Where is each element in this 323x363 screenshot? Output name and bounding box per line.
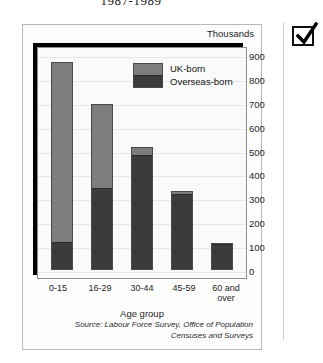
y-axis-tick-label: 200 — [249, 218, 265, 229]
x-axis-tick-label: 16-29 — [82, 283, 119, 303]
chart-legend: UK-born Overseas-born — [133, 63, 233, 88]
bar-slot — [165, 57, 200, 270]
x-axis-tick-label: 60 and over — [208, 283, 245, 303]
y-axis-tick-label: 500 — [249, 146, 265, 157]
stacked-bar[interactable] — [171, 191, 193, 270]
bar-segment-uk-born — [92, 105, 112, 188]
y-axis-tick-label: 600 — [249, 122, 265, 133]
bar-slot — [85, 57, 120, 270]
legend-item-uk-born: UK-born — [170, 63, 233, 76]
y-axis-tick-label: 400 — [249, 170, 265, 181]
y-axis-tick-label: 0 — [249, 266, 254, 277]
x-axis-tick-label: 45-59 — [166, 283, 203, 303]
source-line-1: Source: Labour Force Survey, Office of P… — [53, 320, 253, 331]
screenshot-root: 1987-1989 Thousands 90080070060050040030… — [0, 0, 323, 363]
bar-segment-uk-born — [52, 63, 72, 242]
stacked-bar[interactable] — [91, 104, 113, 270]
legend-labels: UK-born Overseas-born — [170, 63, 233, 88]
bar-slot — [45, 57, 80, 270]
x-axis-ticks: 0-1516-2930-4445-5960 and over — [37, 283, 247, 303]
legend-swatch — [133, 63, 163, 88]
bar-segment-overseas-born — [132, 155, 152, 269]
stacked-bar[interactable] — [131, 147, 153, 270]
bar-segment-overseas-born — [52, 242, 72, 269]
stacked-bar[interactable] — [211, 243, 233, 270]
page-divider — [283, 22, 284, 340]
y-axis-tick-label: 100 — [249, 242, 265, 253]
y-axis-units-label: Thousands — [207, 28, 254, 39]
stacked-bar[interactable] — [51, 62, 73, 270]
legend-swatch-uk-born — [134, 64, 162, 75]
y-axis-tick-label: 700 — [249, 98, 265, 109]
bar-segment-overseas-born — [212, 244, 232, 269]
y-axis-tick-label: 800 — [249, 74, 265, 85]
x-axis-title: Age group — [37, 308, 247, 319]
y-axis-tick-label: 900 — [249, 51, 265, 62]
bar-segment-uk-born — [132, 148, 152, 155]
bar-group — [42, 57, 242, 270]
legend-swatch-overseas-born — [134, 75, 162, 87]
y-axis-tick-label: 300 — [249, 194, 265, 205]
figure-card: Thousands 9008007006005004003002001000 0… — [22, 24, 262, 350]
bar-slot — [125, 57, 160, 270]
source-note: Source: Labour Force Survey, Office of P… — [53, 320, 253, 341]
gridline — [38, 272, 246, 273]
y-axis-ticks: 9008007006005004003002001000 — [249, 47, 275, 279]
bar-segment-overseas-born — [92, 188, 112, 269]
bar-segment-overseas-born — [172, 194, 192, 269]
page-title: 1987-1989 — [0, 0, 262, 9]
checkmark-icon[interactable] — [292, 26, 314, 46]
bar-slot — [205, 57, 240, 270]
x-axis-tick-label: 30-44 — [124, 283, 161, 303]
source-line-2: Censuses and Surveys — [53, 331, 253, 342]
x-axis-tick-label: 0-15 — [40, 283, 77, 303]
legend-item-overseas-born: Overseas-born — [170, 76, 233, 89]
